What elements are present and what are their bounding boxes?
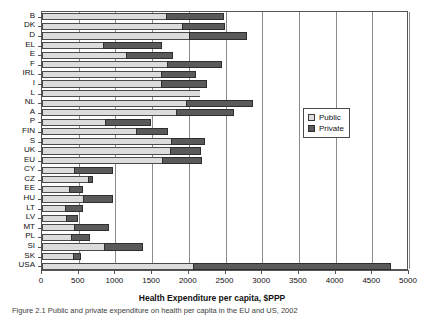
- y-axis-label-LV: LV: [26, 213, 35, 221]
- y-axis-label-FIN: FIN: [22, 127, 35, 135]
- y-axis-label-S: S: [30, 137, 35, 145]
- bar-segment-private: [103, 42, 162, 49]
- x-tick-1500: [151, 270, 152, 274]
- y-axis-label-CY: CY: [24, 165, 35, 173]
- y-axis-label-LT: LT: [26, 204, 35, 212]
- legend-label-private: Private: [319, 124, 344, 133]
- y-axis-label-I: I: [33, 79, 35, 87]
- bar-row: [42, 253, 407, 260]
- y-tick-USA: [38, 266, 42, 267]
- bar-segment-private: [74, 224, 108, 231]
- bar-segment-public: [42, 195, 83, 202]
- bar-segment-public: [42, 109, 176, 116]
- y-axis-label-SK: SK: [24, 252, 35, 260]
- y-axis-label-PL: PL: [25, 232, 35, 240]
- bar-segment-private: [186, 100, 253, 107]
- bar-segment-private: [71, 234, 89, 241]
- bar-row: [42, 128, 407, 135]
- bar-segment-public: [42, 263, 193, 270]
- legend-item-private: Private: [308, 123, 344, 134]
- y-tick-I: [38, 84, 42, 85]
- bar-segment-private: [104, 243, 143, 250]
- bar-segment-public: [42, 61, 167, 68]
- x-tick-4000: [335, 270, 336, 274]
- bar-segment-public: [42, 147, 170, 154]
- bar-segment-private: [166, 13, 224, 20]
- x-tick-label-3500: 3500: [289, 276, 307, 285]
- x-tick-1000: [114, 270, 115, 274]
- y-axis-label-P: P: [30, 117, 35, 125]
- bar-segment-public: [42, 176, 88, 183]
- bar-segment-public: [42, 234, 71, 241]
- bar-segment-public: [42, 32, 189, 39]
- bar-segment-private: [182, 23, 225, 30]
- y-axis-label-E: E: [30, 50, 35, 58]
- bar-segment-public: [42, 71, 161, 78]
- bar-row: [42, 13, 407, 20]
- y-tick-EE: [38, 189, 42, 190]
- y-axis-label-UK: UK: [24, 146, 35, 154]
- legend-swatch-private-icon: [308, 125, 315, 132]
- bar-segment-public: [42, 224, 74, 231]
- bar-segment-private: [65, 205, 83, 212]
- bar-segment-public: [42, 13, 166, 20]
- bar-segment-public: [42, 215, 66, 222]
- y-tick-S: [38, 142, 42, 143]
- bar-row: [42, 80, 407, 87]
- y-tick-B: [38, 17, 42, 18]
- legend-item-public: Public: [308, 112, 344, 123]
- y-axis-label-DK: DK: [24, 21, 35, 29]
- y-tick-NL: [38, 103, 42, 104]
- y-tick-CZ: [38, 180, 42, 181]
- y-tick-MT: [38, 228, 42, 229]
- y-tick-LT: [38, 209, 42, 210]
- x-tick-2000: [188, 270, 189, 274]
- y-tick-HU: [38, 199, 42, 200]
- x-tick-label-5000: 5000: [399, 276, 417, 285]
- y-axis-label-L: L: [31, 89, 35, 97]
- chart-legend: Public Private: [303, 108, 350, 138]
- y-axis-label-D: D: [29, 31, 35, 39]
- bar-row: [42, 157, 407, 164]
- x-tick-label-0: 0: [39, 276, 43, 285]
- bar-row: [42, 167, 407, 174]
- y-tick-P: [38, 122, 42, 123]
- y-axis-label-SI: SI: [27, 242, 35, 250]
- y-axis-labels: BDKDELEFIRLILNLAPFINSUKEUCYCZEEHULTLVMTP…: [0, 11, 38, 270]
- y-tick-DK: [38, 26, 42, 27]
- x-tick-2500: [225, 270, 226, 274]
- bar-row: [42, 176, 407, 183]
- y-axis-label-USA: USA: [19, 261, 35, 269]
- bar-row: [42, 109, 407, 116]
- bars-container: [42, 12, 407, 269]
- x-tick-label-4500: 4500: [362, 276, 380, 285]
- bar-row: [42, 224, 407, 231]
- bar-segment-public: [42, 100, 186, 107]
- bar-row: [42, 234, 407, 241]
- bar-row: [42, 138, 407, 145]
- bar-segment-private: [69, 186, 83, 193]
- bar-segment-public: [42, 128, 136, 135]
- bar-segment-private: [189, 32, 247, 39]
- bar-segment-private: [170, 147, 201, 154]
- bar-segment-private: [161, 71, 196, 78]
- y-tick-UK: [38, 151, 42, 152]
- y-tick-CY: [38, 170, 42, 171]
- x-axis-title: Health Expenditure per capita, $PPP: [0, 293, 424, 303]
- bar-row: [42, 205, 407, 212]
- bar-row: [42, 243, 407, 250]
- bar-segment-public: [42, 138, 171, 145]
- x-tick-3000: [261, 270, 262, 274]
- bar-row: [42, 71, 407, 78]
- y-tick-SI: [38, 247, 42, 248]
- bar-row: [42, 90, 407, 97]
- y-tick-E: [38, 55, 42, 56]
- bar-row: [42, 100, 407, 107]
- bar-row: [42, 186, 407, 193]
- x-tick-label-1500: 1500: [142, 276, 160, 285]
- x-tick-4500: [371, 270, 372, 274]
- y-tick-L: [38, 94, 42, 95]
- bar-row: [42, 23, 407, 30]
- y-tick-LV: [38, 218, 42, 219]
- plot-area: [41, 11, 408, 270]
